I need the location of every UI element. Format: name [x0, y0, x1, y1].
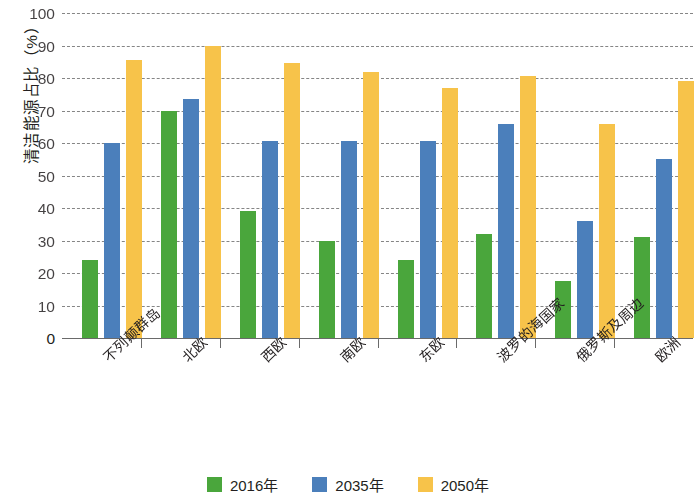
- x-axis-tick: [141, 339, 142, 348]
- y-tick-label-90: 90: [38, 38, 55, 56]
- legend-swatch: [207, 477, 222, 492]
- bar: [520, 76, 536, 338]
- bar: [284, 63, 300, 338]
- bar: [363, 72, 379, 339]
- bar: [161, 111, 177, 339]
- y-tick-label-60: 60: [38, 135, 55, 153]
- x-axis-tick: [378, 339, 379, 348]
- bar: [262, 141, 278, 338]
- bar-group: [161, 13, 221, 338]
- legend: 2016年2035年2050年: [0, 474, 696, 495]
- bar: [104, 143, 120, 338]
- legend-label: 2050年: [441, 474, 489, 495]
- bar-group: [476, 13, 536, 338]
- y-tick-label-50: 50: [38, 168, 55, 186]
- bar: [240, 211, 256, 338]
- bar: [82, 260, 98, 338]
- x-axis-tick: [220, 339, 221, 348]
- legend-item: 2035年: [312, 474, 383, 495]
- legend-swatch: [312, 477, 327, 492]
- bar: [577, 221, 593, 338]
- y-tick-label-30: 30: [38, 233, 55, 251]
- y-tick-label-10: 10: [38, 298, 55, 316]
- bar-group: [82, 13, 142, 338]
- plot-area: 1009080706050403020100: [62, 13, 693, 338]
- legend-label: 2016年: [230, 474, 278, 495]
- bar-group: [555, 13, 615, 338]
- clean-energy-share-bar-chart: 清洁能源占比（%） 1009080706050403020100 不列颠群岛北欧…: [0, 0, 696, 502]
- x-axis-tick: [614, 339, 615, 348]
- bar: [420, 141, 436, 338]
- bar: [599, 124, 615, 339]
- bar: [476, 234, 492, 338]
- y-tick-label-100: 100: [29, 5, 55, 23]
- bar: [398, 260, 414, 338]
- bar: [498, 124, 514, 339]
- legend-item: 2050年: [418, 474, 489, 495]
- bar: [205, 46, 221, 339]
- x-axis-tick: [535, 339, 536, 348]
- y-tick-label-0: 0: [46, 330, 55, 348]
- legend-label: 2035年: [335, 474, 383, 495]
- legend-item: 2016年: [207, 474, 278, 495]
- bar: [678, 81, 694, 338]
- bar-group: [398, 13, 458, 338]
- bar: [656, 159, 672, 338]
- bar-groups: [62, 13, 693, 338]
- bar: [183, 99, 199, 338]
- bar: [341, 141, 357, 338]
- bar: [319, 241, 335, 339]
- bar: [442, 88, 458, 338]
- x-axis-tick: [299, 339, 300, 348]
- bar-group: [319, 13, 379, 338]
- bar: [634, 237, 650, 338]
- bar-group: [634, 13, 694, 338]
- y-tick-label-70: 70: [38, 103, 55, 121]
- bar: [126, 60, 142, 338]
- y-tick-label-40: 40: [38, 200, 55, 218]
- bar-group: [240, 13, 300, 338]
- x-axis-tick: [456, 339, 457, 348]
- y-tick-label-20: 20: [38, 265, 55, 283]
- legend-swatch: [418, 477, 433, 492]
- y-tick-label-80: 80: [38, 70, 55, 88]
